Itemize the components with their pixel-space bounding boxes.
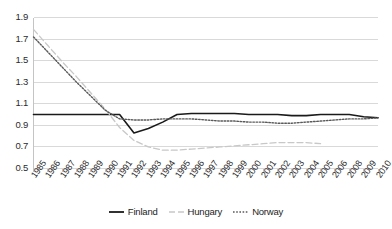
legend-item-norway[interactable]: Norway xyxy=(233,206,283,217)
line-chart: 0.50.70.91.11.31.51.71.9 198519861987198… xyxy=(0,0,392,229)
axis-lines xyxy=(34,18,379,172)
y-tick-label: 1.3 xyxy=(2,76,28,87)
y-tick-label: 1.1 xyxy=(2,97,28,108)
legend-label: Hungary xyxy=(188,206,223,217)
legend-swatch-norway-icon xyxy=(233,208,248,216)
plot-area xyxy=(0,0,392,229)
y-tick-label: 0.5 xyxy=(2,162,28,173)
series-lines xyxy=(34,29,379,150)
legend-label: Finland xyxy=(128,206,158,217)
y-tick-label: 0.7 xyxy=(2,140,28,151)
legend-swatch-finland-icon xyxy=(109,208,124,216)
legend-label: Norway xyxy=(252,206,283,217)
y-tick-label: 1.9 xyxy=(2,11,28,22)
series-line-finland xyxy=(34,113,379,132)
y-tick-label: 0.9 xyxy=(2,119,28,130)
series-line-norway xyxy=(34,37,379,123)
legend-swatch-hungary-icon xyxy=(169,208,184,216)
legend-item-hungary[interactable]: Hungary xyxy=(169,206,223,217)
gridlines xyxy=(34,18,379,169)
chart-legend: FinlandHungaryNorway xyxy=(0,206,392,217)
y-tick-label: 1.5 xyxy=(2,54,28,65)
series-line-hungary xyxy=(34,29,321,150)
y-tick-label: 1.7 xyxy=(2,33,28,44)
legend-item-finland[interactable]: Finland xyxy=(109,206,158,217)
